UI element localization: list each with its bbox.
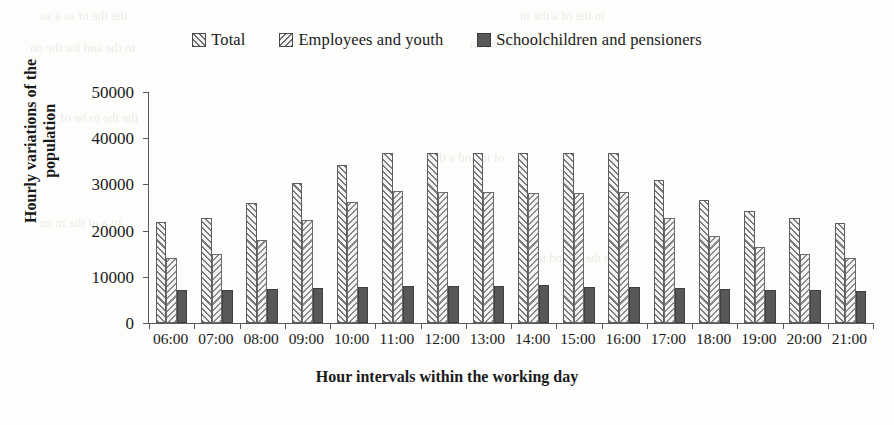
legend-swatch-total-icon [192,33,206,47]
bar-schoolchildren-and-pensioners-0900[interactable] [313,288,324,323]
legend-swatch-employees-icon [279,33,293,47]
bar-employees-and-youth-1900[interactable] [755,247,766,323]
bar-employees-and-youth-2000[interactable] [800,254,811,323]
bar-schoolchildren-and-pensioners-1200[interactable] [448,286,459,323]
x-axis-tick [873,323,874,329]
bar-group [375,92,420,323]
bar-employees-and-youth-1700[interactable] [664,218,675,323]
legend-swatch-schoolchildren-icon [477,33,491,47]
bar-employees-and-youth-0900[interactable] [302,220,313,323]
bar-employees-and-youth-0600[interactable] [166,258,177,323]
x-axis-tick [737,323,738,329]
bar-total-1600[interactable] [608,153,619,323]
bar-employees-and-youth-0800[interactable] [257,240,268,323]
bar-employees-and-youth-0700[interactable] [212,254,223,323]
legend-item-total[interactable]: Total [192,30,245,50]
bar-employees-and-youth-1200[interactable] [438,192,449,323]
bar-total-1200[interactable] [427,153,438,323]
bar-total-0700[interactable] [201,218,212,323]
bar-schoolchildren-and-pensioners-1600[interactable] [629,287,640,323]
x-axis-tick [783,323,784,329]
bar-schoolchildren-and-pensioners-1000[interactable] [358,287,369,323]
bar-total-1100[interactable] [382,153,393,323]
x-axis-label-1100: 11:00 [374,330,419,348]
bar-employees-and-youth-1600[interactable] [619,192,630,323]
x-axis-title: Hour intervals within the working day [0,368,894,386]
legend-item-employees-and-youth[interactable]: Employees and youth [279,30,443,50]
y-axis-tick-label: 40000 [92,129,135,149]
bar-total-0900[interactable] [292,183,303,323]
bar-total-1300[interactable] [473,153,484,323]
x-axis-tick-labels: 06:0007:0008:0009:0010:0011:0012:0013:00… [148,330,872,348]
x-axis-tick [330,323,331,329]
y-axis-tick-label: 50000 [92,83,135,103]
bar-total-2000[interactable] [789,218,800,323]
x-axis-tick [194,323,195,329]
bar-group [421,92,466,323]
bar-employees-and-youth-1100[interactable] [393,191,404,323]
bar-employees-and-youth-1400[interactable] [528,193,539,323]
bar-group [556,92,601,323]
bar-schoolchildren-and-pensioners-1300[interactable] [494,286,505,323]
x-axis-label-1900: 19:00 [736,330,781,348]
x-axis-tick [240,323,241,329]
bar-schoolchildren-and-pensioners-2100[interactable] [856,291,867,323]
bar-group [194,92,239,323]
x-axis-tick [647,323,648,329]
bar-total-1000[interactable] [337,165,348,323]
bar-schoolchildren-and-pensioners-1900[interactable] [765,290,776,323]
x-axis-label-1600: 16:00 [601,330,646,348]
x-axis-label-2000: 20:00 [782,330,827,348]
bar-schoolchildren-and-pensioners-2000[interactable] [810,290,821,323]
bar-employees-and-youth-1500[interactable] [574,193,585,323]
bar-group [149,92,194,323]
bar-total-2100[interactable] [835,223,846,323]
x-axis-label-1500: 15:00 [555,330,600,348]
bar-total-1800[interactable] [699,200,710,323]
x-axis-label-0700: 07:00 [193,330,238,348]
x-axis-tick [466,323,467,329]
y-axis-tick-label: 0 [126,314,135,334]
bar-total-1500[interactable] [563,153,574,323]
bar-total-1900[interactable] [744,211,755,323]
bar-employees-and-youth-1300[interactable] [483,192,494,323]
bar-total-1700[interactable] [654,180,665,323]
y-axis-title: Hourly variations of the population [22,38,60,244]
y-axis-tick-label: 30000 [92,175,135,195]
bar-schoolchildren-and-pensioners-1100[interactable] [403,286,414,323]
bar-group [511,92,556,323]
x-axis-tick [556,323,557,329]
bar-schoolchildren-and-pensioners-1700[interactable] [675,288,686,323]
bar-group [602,92,647,323]
bar-group [647,92,692,323]
bar-schoolchildren-and-pensioners-1400[interactable] [539,285,550,323]
bar-employees-and-youth-1800[interactable] [709,236,720,323]
bar-total-0600[interactable] [156,222,167,323]
legend-item-schoolchildren-and-pensioners[interactable]: Schoolchildren and pensioners [477,30,701,50]
bar-schoolchildren-and-pensioners-1800[interactable] [720,289,731,323]
x-axis-tick [602,323,603,329]
bar-total-1400[interactable] [518,153,529,323]
legend-label-schoolchildren-and-pensioners: Schoolchildren and pensioners [496,30,701,50]
chart-legend: Total Employees and youth Schoolchildren… [0,30,894,50]
bar-group [692,92,737,323]
x-axis-label-0900: 09:00 [284,330,329,348]
x-axis-label-1000: 10:00 [329,330,374,348]
x-axis-tick [421,323,422,329]
x-axis-label-1400: 14:00 [510,330,555,348]
bar-employees-and-youth-2100[interactable] [845,258,856,323]
bar-schoolchildren-and-pensioners-0800[interactable] [267,289,278,323]
bar-employees-and-youth-1000[interactable] [347,202,358,323]
x-axis-label-0600: 06:00 [148,330,193,348]
bar-group [240,92,285,323]
bar-total-0800[interactable] [246,203,257,323]
y-axis-tick-label: 10000 [92,268,135,288]
bar-schoolchildren-and-pensioners-0700[interactable] [222,290,233,323]
bar-schoolchildren-and-pensioners-1500[interactable] [584,287,595,323]
bar-group [783,92,828,323]
bar-group [330,92,375,323]
legend-label-total: Total [211,30,245,50]
chart-figure: Total Employees and youth Schoolchildren… [0,0,894,425]
bar-schoolchildren-and-pensioners-0600[interactable] [177,290,188,323]
x-axis-label-1700: 17:00 [646,330,691,348]
